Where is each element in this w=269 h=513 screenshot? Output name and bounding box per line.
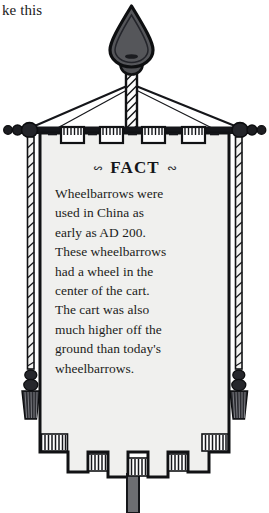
right-cord-tassel — [230, 137, 248, 419]
fact-body-line: center of the cart. — [55, 281, 220, 300]
spear-finial-icon — [110, 6, 153, 67]
fact-heading-row: ∾ FACT ∾ — [50, 155, 220, 181]
fact-heading: FACT — [110, 158, 159, 178]
crossbar-right-beads — [232, 123, 266, 138]
fact-body-line: early as AD 200. — [55, 223, 220, 242]
left-cord-tassel — [22, 137, 40, 419]
fact-body-line: wheelbarrows. — [55, 359, 220, 378]
fact-body-line: used in China as — [55, 203, 220, 222]
fact-body-text: Wheelbarrows were used in China as early… — [50, 184, 220, 378]
banner-content: ∾ FACT ∾ Wheelbarrows were used in China… — [50, 155, 220, 445]
fact-body-line: much higher off the — [55, 320, 220, 339]
fact-body-line: These wheelbarrows — [55, 242, 220, 261]
fact-body-line: Wheelbarrows were — [55, 184, 220, 203]
illustration-scene: ke this — [0, 0, 269, 513]
fact-body-line: had a wheel in the — [55, 262, 220, 281]
fact-body-line: The cart was also — [55, 300, 220, 319]
fact-body-line: ground than today's — [55, 339, 220, 358]
crossbar-left-beads — [4, 123, 38, 138]
swash-ornament-right-icon: ∾ — [167, 162, 177, 174]
lower-pole — [127, 474, 139, 513]
swash-ornament-left-icon: ∾ — [93, 162, 103, 174]
